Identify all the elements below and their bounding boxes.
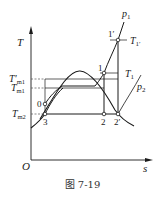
point-1: [102, 71, 106, 75]
point-0-label: 0: [37, 99, 42, 109]
axes: [29, 26, 153, 162]
origin-label: O: [22, 160, 30, 172]
point-1prime: [116, 38, 120, 42]
y-axis-label: T: [17, 36, 24, 48]
point-2prime-label: 2′: [114, 117, 121, 127]
tm2-label: Tm2: [12, 108, 26, 120]
t1-label: T1: [125, 68, 135, 81]
point-1prime-label: 1′: [108, 29, 115, 39]
ts-diagram: T s O p1 p2 T1′ T1 T′m1 Tm1 Tm2 1′ 1 0 3…: [0, 0, 165, 203]
point-3-label: 3: [43, 117, 48, 127]
point-2-label: 2: [101, 117, 106, 127]
p2-label: p2: [136, 81, 146, 94]
point-1-label: 1: [98, 63, 103, 73]
point-3: [43, 112, 47, 116]
x-axis-label: s: [143, 162, 147, 174]
point-2prime: [116, 112, 120, 116]
point-2: [102, 112, 106, 116]
y-axis-arrow-icon: [29, 26, 33, 34]
point-0: [43, 102, 47, 106]
p1-label: p1: [121, 8, 131, 21]
t1prime-label: T1′: [130, 35, 141, 48]
figure-caption: 图 7-19: [0, 176, 165, 191]
